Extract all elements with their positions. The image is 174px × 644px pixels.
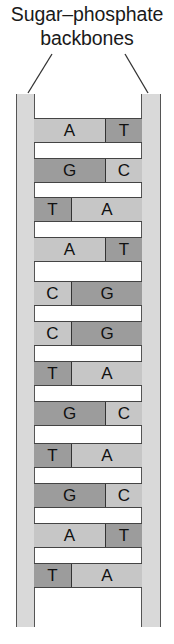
base-A: A bbox=[72, 564, 142, 587]
base-pair: GC bbox=[34, 483, 142, 508]
base-T: T bbox=[106, 119, 142, 142]
base-G: G bbox=[72, 282, 142, 305]
base-T: T bbox=[34, 444, 72, 467]
base-G: G bbox=[34, 484, 106, 507]
base-G: G bbox=[34, 402, 106, 425]
base-pair: TA bbox=[34, 197, 142, 222]
base-T: T bbox=[34, 362, 72, 385]
base-pair: GC bbox=[34, 158, 142, 183]
base-C: C bbox=[106, 484, 142, 507]
base-T: T bbox=[106, 524, 142, 547]
base-A: A bbox=[34, 524, 106, 547]
base-A: A bbox=[72, 198, 142, 221]
base-C: C bbox=[106, 402, 142, 425]
left-leader-line bbox=[28, 54, 52, 93]
left-sugar-phosphate-backbone bbox=[16, 94, 35, 627]
base-A: A bbox=[34, 119, 106, 142]
base-C: C bbox=[106, 159, 142, 182]
base-T: T bbox=[34, 564, 72, 587]
base-T: T bbox=[106, 238, 142, 261]
base-C: C bbox=[34, 322, 72, 345]
base-G: G bbox=[34, 159, 106, 182]
base-pair: CG bbox=[34, 321, 142, 346]
leader-lines bbox=[0, 0, 174, 100]
base-pair: GC bbox=[34, 401, 142, 426]
base-pair: TA bbox=[34, 443, 142, 468]
base-pair: CG bbox=[34, 281, 142, 306]
base-A: A bbox=[34, 238, 106, 261]
right-sugar-phosphate-backbone bbox=[141, 94, 161, 627]
base-A: A bbox=[72, 362, 142, 385]
base-A: A bbox=[72, 444, 142, 467]
base-pair: TA bbox=[34, 563, 142, 588]
base-G: G bbox=[72, 322, 142, 345]
base-pair: AT bbox=[34, 523, 142, 548]
base-C: C bbox=[34, 282, 72, 305]
base-pair: TA bbox=[34, 361, 142, 386]
base-pair: AT bbox=[34, 118, 142, 143]
right-leader-line bbox=[125, 54, 148, 93]
base-pair: AT bbox=[34, 237, 142, 262]
base-T: T bbox=[34, 198, 72, 221]
